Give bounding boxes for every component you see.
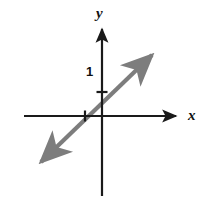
y-intercept-tick-label: 1 [86,65,93,78]
x-axis-label: x [188,108,196,123]
line-graph-figure: y x 1 [0,0,208,200]
coordinate-plane-svg [0,0,208,200]
plotted-line-group [41,55,152,162]
plotted-line [41,55,152,162]
y-axis-label: y [96,6,103,21]
